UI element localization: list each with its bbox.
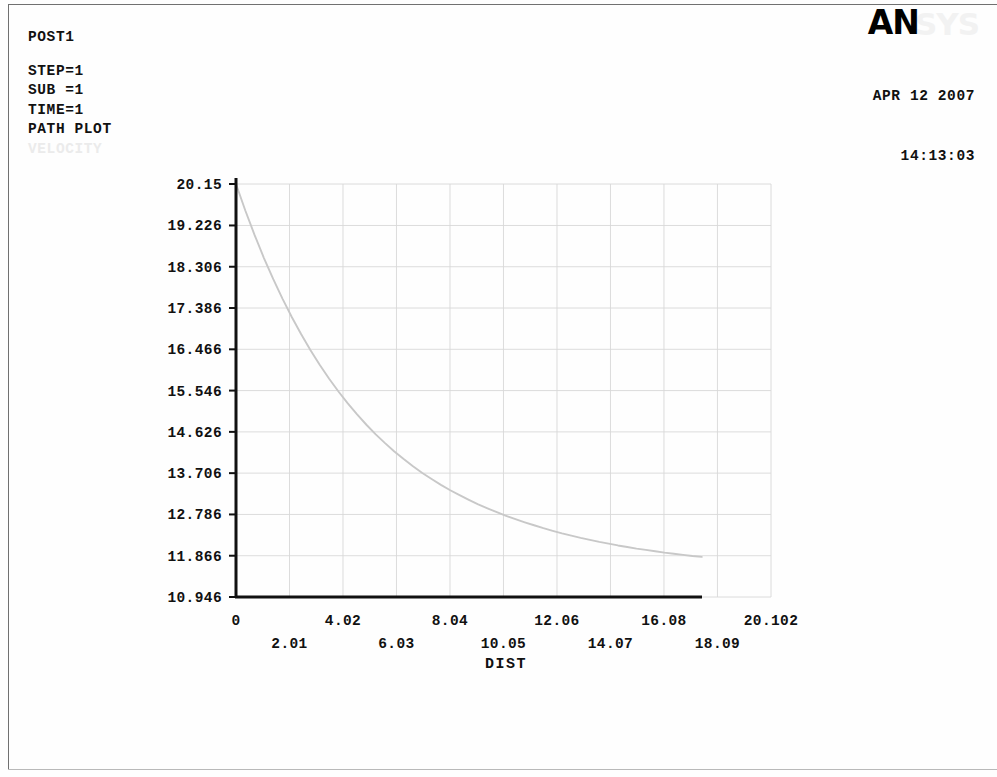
chart-gridlines	[236, 184, 771, 597]
y-tick-label: 16.466	[167, 342, 222, 358]
x-tick-label: 0	[231, 613, 240, 629]
x-tick-label: 12.06	[534, 613, 580, 629]
path-plot-chart: 10.94611.86612.78613.70614.62615.54616.4…	[0, 0, 997, 777]
y-tick-label: 18.306	[167, 260, 222, 276]
chart-curve-layer	[236, 184, 702, 557]
chart-axes	[229, 178, 702, 597]
x-axis-title: DIST	[485, 656, 527, 673]
y-tick-label: 19.226	[167, 218, 222, 234]
y-tick-label: 20.15	[176, 177, 222, 193]
x-tick-label: 10.05	[481, 636, 527, 652]
y-tick-label: 13.706	[167, 466, 222, 482]
x-tick-label: 18.09	[695, 636, 741, 652]
y-tick-label: 11.866	[167, 549, 222, 565]
x-axis-tick-labels: 02.014.026.038.0410.0512.0614.0716.0818.…	[231, 613, 798, 652]
y-tick-label: 12.786	[167, 507, 222, 523]
x-tick-label: 4.02	[325, 613, 361, 629]
x-tick-label: 2.01	[271, 636, 307, 652]
x-tick-label: 6.03	[378, 636, 414, 652]
x-tick-label: 14.07	[588, 636, 634, 652]
x-tick-label: 16.08	[641, 613, 687, 629]
scanned-page: POST1 STEP=1 SUB =1 TIME=1 PATH PLOT VEL…	[0, 0, 997, 777]
x-tick-label: 20.102	[744, 613, 799, 629]
y-tick-label: 15.546	[167, 384, 222, 400]
y-tick-label: 14.626	[167, 425, 222, 441]
y-tick-label: 17.386	[167, 301, 222, 317]
y-axis-tick-labels: 10.94611.86612.78613.70614.62615.54616.4…	[167, 177, 222, 606]
velocity-curve	[236, 184, 702, 557]
x-tick-label: 8.04	[432, 613, 468, 629]
y-tick-label: 10.946	[167, 590, 222, 606]
